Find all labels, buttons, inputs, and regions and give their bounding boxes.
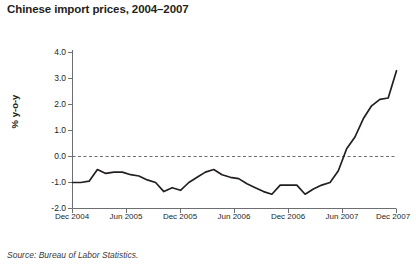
x-tick-label: Jun 2007 (326, 212, 359, 221)
y-tick-label: 0.0 (40, 152, 66, 161)
y-tick-label: 2.0 (40, 100, 66, 109)
source-note: Source: Bureau of Labor Statistics. (7, 250, 138, 260)
y-tick-label: -1.0 (40, 178, 66, 187)
y-tick-label: 1.0 (40, 126, 66, 135)
x-tick-label: Jun 2006 (218, 212, 251, 221)
x-tick-label: Dec 2004 (55, 212, 89, 221)
x-tick-label: Dec 2005 (163, 212, 197, 221)
y-axis-label: % y-o-y (9, 82, 20, 142)
plot-area: % y-o-y 4.0 3.0 2.0 1.0 0.0 -1.0 -2.0 (0, 0, 416, 240)
x-tick-label: Jun 2005 (110, 212, 143, 221)
chart-container: Chinese import prices, 2004–2007 % y-o-y… (0, 0, 416, 272)
y-tick-label: 3.0 (40, 74, 66, 83)
data-line-series (73, 71, 397, 195)
y-tick-marks (68, 53, 73, 209)
y-axis-tick-labels: 4.0 3.0 2.0 1.0 0.0 -1.0 -2.0 (36, 0, 66, 240)
x-axis-tick-labels: Dec 2004 Jun 2005 Dec 2005 Jun 2006 Dec … (0, 212, 416, 232)
x-tick-label: Dec 2007 (376, 212, 410, 221)
y-tick-label: 4.0 (40, 48, 66, 57)
x-tick-label: Dec 2006 (271, 212, 305, 221)
